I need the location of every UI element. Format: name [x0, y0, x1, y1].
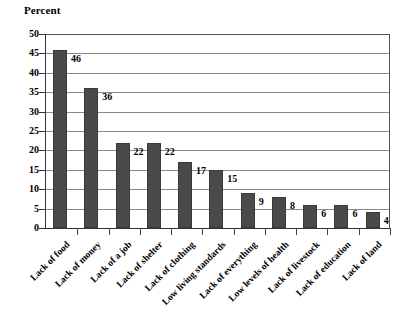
y-tick-mark — [39, 131, 45, 132]
y-tick-label: 20 — [9, 144, 39, 155]
y-tick-mark — [39, 34, 45, 35]
bar-value-label: 4 — [384, 216, 389, 226]
y-tick-label: 5 — [9, 203, 39, 214]
bars-layer: 46362222171598664 — [46, 34, 390, 228]
y-tick-mark — [39, 150, 45, 151]
bar-chart: Percent 05101520253035404550 46362222171… — [0, 0, 413, 335]
bar-slot: 36 — [77, 34, 108, 228]
y-tick-mark — [39, 209, 45, 210]
y-tick-label: 30 — [9, 106, 39, 117]
y-tick-label: 50 — [9, 28, 39, 39]
y-tick-mark — [39, 53, 45, 54]
x-axis-labels: Lack of foodLack of moneyLack of a jobLa… — [0, 228, 413, 335]
y-tick-mark — [39, 170, 45, 171]
y-tick-label: 15 — [9, 164, 39, 175]
y-tick-label: 10 — [9, 183, 39, 194]
y-axis-title: Percent — [24, 4, 61, 16]
bar-slot: 46 — [46, 34, 77, 228]
bar — [53, 50, 67, 228]
x-axis-label-text: Lack of education — [294, 238, 354, 298]
y-tick-label: 25 — [9, 125, 39, 136]
y-tick-label: 45 — [9, 47, 39, 58]
y-tick-label: 40 — [9, 67, 39, 78]
x-axis-label-text: Lack of everything — [198, 238, 261, 301]
y-tick-mark — [39, 189, 45, 190]
x-axis-label-text: Lack of livestock — [266, 238, 323, 295]
y-tick-mark — [39, 112, 45, 113]
y-tick-mark — [39, 92, 45, 93]
y-tick-label: 35 — [9, 86, 39, 97]
y-tick-mark — [39, 73, 45, 74]
